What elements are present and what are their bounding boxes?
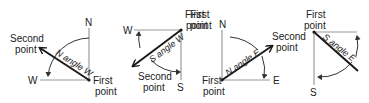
west-label: W — [123, 25, 133, 36]
first-point-label-line1: First — [93, 75, 113, 86]
first-point-label-line2: point — [95, 86, 117, 97]
bearing-diagrams: N W Second point First point N angle W W… — [0, 0, 369, 103]
panel-n-angle-e: N E First point First point Second point… — [190, 9, 306, 97]
first-point-label-line2: point — [203, 86, 225, 97]
west-label: W — [28, 75, 38, 86]
second-point-label-line2: point — [276, 42, 298, 53]
panel-n-angle-w: N W Second point First point N angle W — [10, 17, 117, 97]
angle-arc-east — [262, 56, 265, 78]
second-point-label-line2: point — [143, 82, 165, 93]
first-point-top-label-line2: point — [190, 20, 212, 31]
first-point-dot — [87, 78, 90, 81]
first-point-label-line1: First — [202, 75, 222, 86]
first-point-label-line2: point — [304, 20, 326, 31]
angle-label: N angle E — [224, 47, 263, 78]
angle-label: S angle E — [321, 32, 359, 65]
second-point-label-line2: point — [15, 44, 37, 55]
second-point-label-line1: Second — [138, 71, 172, 82]
panel-s-angle-e: S First point S angle E — [304, 9, 358, 98]
second-point-label-line1: Second — [272, 31, 306, 42]
east-label: E — [273, 75, 280, 86]
angle-arc-east — [356, 36, 358, 56]
north-label: N — [219, 19, 226, 30]
angle-arc-west — [139, 32, 140, 48]
south-label: S — [177, 82, 184, 93]
north-label: N — [85, 17, 92, 28]
second-point-label-line1: Second — [10, 33, 44, 44]
south-label: S — [310, 87, 317, 98]
first-point-top-label-line1: First — [190, 9, 210, 20]
first-point-label-line1: First — [306, 9, 326, 20]
angle-arc-south — [318, 62, 352, 77]
